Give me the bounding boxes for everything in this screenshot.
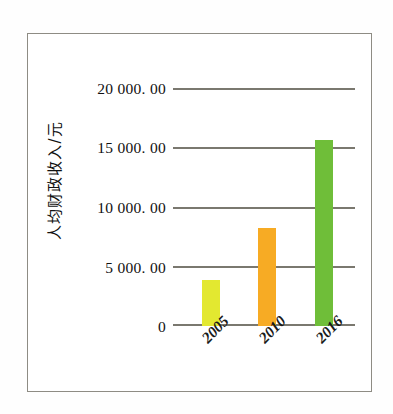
bar-2010: [258, 228, 276, 326]
bar-2016: [315, 140, 333, 326]
y-tick-label-0: 0: [158, 319, 166, 335]
y-tick-label-5000: 5 000. 00: [105, 260, 166, 276]
y-axis-tick-labels: 20 000. 00 15 000. 00 10 000. 00 5 000. …: [58, 0, 166, 414]
y-tick-label-10000: 10 000. 00: [97, 200, 166, 216]
y-tick-label-15000: 15 000. 00: [97, 140, 166, 156]
chart-figure: 人均财政收入/元 20 000. 00 15 000. 00 10 000. 0…: [0, 0, 393, 414]
plot-area: [173, 88, 355, 326]
gridline-20000: [173, 88, 355, 90]
y-tick-label-20000: 20 000. 00: [97, 81, 166, 97]
